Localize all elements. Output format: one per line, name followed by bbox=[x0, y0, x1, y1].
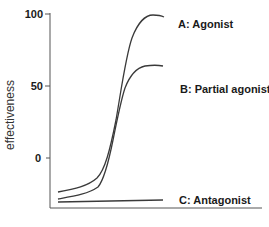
label-antagonist: C: Antagonist bbox=[179, 194, 251, 206]
y-tick-label-0: 0 bbox=[35, 152, 41, 164]
y-axis-label: effectiveness bbox=[3, 80, 17, 150]
y-tick-label-50: 50 bbox=[31, 80, 43, 92]
label-partial-agonist: B: Partial agonist bbox=[180, 83, 269, 95]
y-tick-label-100: 100 bbox=[25, 8, 43, 20]
curve-antagonist bbox=[58, 200, 163, 202]
curve-partial-agonist bbox=[58, 65, 163, 199]
label-agonist: A: Agonist bbox=[178, 18, 234, 30]
curve-agonist bbox=[58, 15, 164, 192]
axes bbox=[50, 13, 262, 208]
dose-response-chart: 100 50 0 effectiveness A: Agonist B: Par… bbox=[0, 0, 269, 227]
